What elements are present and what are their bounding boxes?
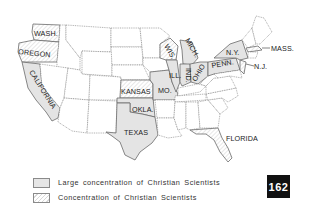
page-number-badge: 162 [267,175,290,198]
legend-item-concentration: Concentration of Christian Scientists [33,190,220,205]
nj-pointer [246,64,254,66]
state-colorado [89,75,121,100]
legend-swatch-large [33,178,50,188]
legend-label-concentration: Concentration of Christian Scientists [58,193,197,202]
state-maine [252,16,272,44]
label-mass: MASS. [271,44,294,53]
label-kansas: KANSAS [121,87,151,96]
state-new-mexico [87,100,117,133]
label-florida: FLORIDA [226,134,258,143]
state-connecticut [248,52,258,58]
state-arizona [58,98,89,133]
state-wyoming [82,51,112,76]
label-texas: TEXAS [124,128,148,137]
legend-item-large: Large concentration of Christian Scienti… [33,175,220,190]
label-ill: ILL. [169,71,181,80]
label-ny: N.Y. [226,48,239,57]
label-okla: OKLA. [132,105,154,114]
map-legend: Large concentration of Christian Scienti… [33,175,220,205]
state-alabama [186,102,200,130]
label-wash: WASH. [34,29,58,38]
legend-swatch-concentration [33,193,50,203]
label-nj: N.J. [254,62,267,71]
state-new-jersey [240,60,246,74]
legend-label-large: Large concentration of Christian Scienti… [58,178,220,187]
state-south-dakota [111,47,143,65]
state-arkansas [155,100,175,118]
state-north-dakota [111,28,142,47]
label-mo: MO. [158,86,172,95]
